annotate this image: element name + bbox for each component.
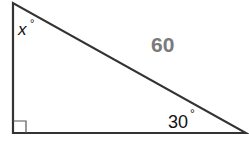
- triangle-outline: [13, 3, 246, 133]
- angle-30-degree-symbol: °: [190, 108, 195, 120]
- angle-x-degree-symbol: °: [30, 18, 34, 29]
- angle-30-label: 30: [168, 113, 188, 131]
- triangle-diagram: x ° 60 30 °: [0, 0, 249, 154]
- right-angle-marker: [13, 121, 26, 133]
- angle-x-label: x: [18, 21, 27, 38]
- triangle-shape: [0, 0, 249, 154]
- hypotenuse-length-label: 60: [151, 34, 174, 55]
